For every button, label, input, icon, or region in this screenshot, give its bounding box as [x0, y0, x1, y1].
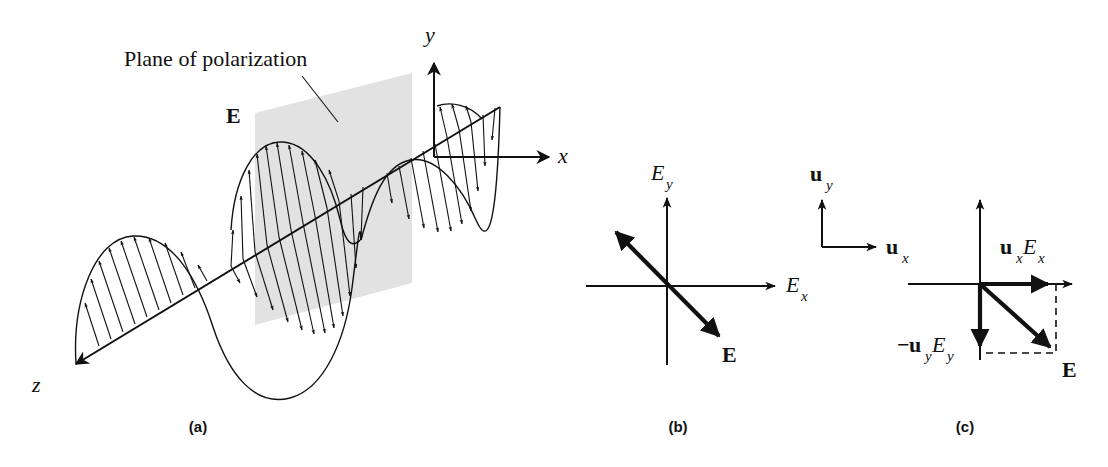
svg-text:x: x	[1015, 250, 1023, 266]
svg-text:x: x	[901, 250, 909, 266]
svg-text:y: y	[945, 348, 954, 364]
panel-b-caption: (b)	[668, 418, 687, 435]
svg-text:x: x	[800, 288, 808, 304]
panel-a-caption: (a)	[189, 418, 207, 435]
polarization-figure: Plane of polarization E x y z (a) E y E …	[0, 0, 1108, 467]
panel-c-resultant-label: E	[1062, 357, 1077, 382]
svg-text:E: E	[785, 272, 800, 297]
svg-text:u: u	[909, 332, 921, 357]
svg-text:y: y	[824, 177, 833, 193]
svg-text:−: −	[897, 332, 910, 357]
plane-annotation-label: Plane of polarization	[124, 46, 307, 71]
svg-text:E: E	[650, 160, 665, 185]
svg-text:E: E	[1022, 234, 1037, 259]
panel-b-vector-label: E	[722, 342, 737, 367]
z-axis-label: z	[31, 372, 41, 397]
svg-text:u: u	[886, 234, 898, 259]
panel-a-field-label: E	[226, 103, 241, 128]
svg-text:E: E	[931, 332, 946, 357]
svg-text:u: u	[1000, 234, 1012, 259]
x-axis-label: x	[557, 143, 568, 168]
y-axis-label: y	[423, 22, 435, 47]
svg-text:x: x	[1037, 250, 1045, 266]
svg-text:y: y	[664, 176, 673, 192]
svg-text:u: u	[810, 161, 822, 186]
svg-text:y: y	[923, 348, 932, 364]
panel-c-caption: (c)	[956, 418, 974, 435]
